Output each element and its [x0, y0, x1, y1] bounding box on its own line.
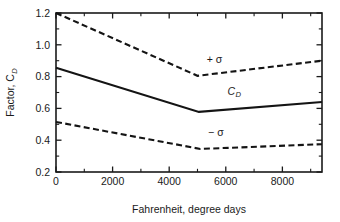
x-tick-label: 4000	[158, 175, 182, 187]
series-label: − σ	[208, 126, 224, 138]
chart-background	[0, 0, 340, 222]
y-tick-label: 0.8	[35, 70, 50, 82]
chart-canvas: 02000400060008000 0.20.40.60.81.01.2 + σ…	[0, 0, 340, 222]
y-tick-label: 0.4	[35, 134, 50, 146]
x-tick-label: 6000	[214, 175, 238, 187]
x-axis-title: Fahrenheit, degree days	[132, 203, 246, 215]
chart-figure: 02000400060008000 0.20.40.60.81.01.2 + σ…	[0, 0, 340, 222]
y-tick-label: 1.0	[35, 39, 50, 51]
y-tick-label: 0.6	[35, 102, 50, 114]
x-tick-label: 0	[53, 175, 59, 187]
y-tick-label: 1.2	[35, 7, 50, 19]
y-tick-label: 0.2	[35, 166, 50, 178]
x-tick-label: 2000	[101, 175, 125, 187]
x-tick-label: 8000	[271, 175, 295, 187]
series-label: + σ	[207, 53, 223, 65]
